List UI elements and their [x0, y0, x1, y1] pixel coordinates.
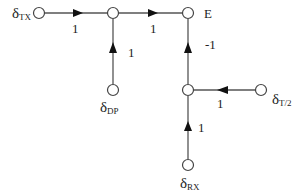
node-dp	[108, 85, 119, 96]
node-rx	[183, 160, 194, 171]
arrow-left-icon	[217, 86, 228, 94]
edge-rx-j2	[184, 96, 192, 159]
arrow-right-icon	[148, 9, 158, 17]
node-junction-top	[108, 8, 119, 19]
edge-tx-j1	[45, 9, 107, 17]
label-t2: δT/2	[272, 91, 292, 108]
gain-tx-j1: 1	[72, 21, 79, 36]
arrow-right-icon	[73, 9, 83, 17]
label-rx: δRX	[180, 175, 200, 192]
arrow-up-icon	[109, 42, 117, 53]
gain-j2-E: -1	[205, 37, 216, 52]
edge-j1-E	[119, 9, 182, 17]
arrow-up-icon	[184, 121, 192, 131]
edge-dp-j1	[109, 19, 117, 84]
gain-rx-j2: 1	[198, 120, 205, 135]
node-tx	[34, 8, 45, 19]
label-dp: δDP	[100, 99, 119, 116]
arrow-up-icon	[184, 42, 192, 53]
edge-j2-E	[184, 19, 192, 84]
gain-j1-E: 1	[150, 21, 157, 36]
gain-t2-j2: 1	[217, 96, 224, 111]
edge-t2-j2	[194, 86, 255, 94]
signal-flow-diagram: δTX E δDP δT/2 δRX 1 1 1 -1 1 1	[0, 0, 304, 196]
node-junction-bottom	[183, 85, 194, 96]
label-E: E	[204, 6, 212, 21]
node-E	[183, 8, 194, 19]
node-t2	[256, 85, 267, 96]
gain-dp-j1: 1	[128, 45, 135, 60]
label-tx: δTX	[12, 5, 32, 22]
